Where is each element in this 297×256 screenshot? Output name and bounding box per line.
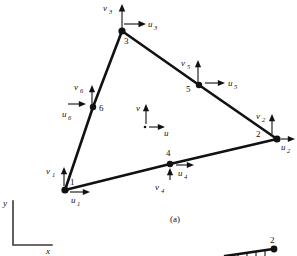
node-2-id-label: 2 xyxy=(256,129,261,139)
node-5-v-arrow-head xyxy=(195,60,201,67)
node-1-id-label: 1 xyxy=(70,177,75,187)
node-2-u-label: u xyxy=(281,142,286,152)
global-axes: y x xyxy=(2,198,52,256)
node-3-u-arrow-head xyxy=(139,21,147,28)
node-1-u-arrow-head xyxy=(83,189,90,195)
node-2-v-arrow-head xyxy=(269,114,275,121)
partial-figure-b-node-dot xyxy=(271,246,278,253)
node-2-v-sublabel: 2 xyxy=(262,116,266,123)
node-5-id-label: 5 xyxy=(186,84,191,94)
partial-figure-b-edge xyxy=(225,249,273,256)
node-4-v-sublabel: 4 xyxy=(161,187,165,194)
node-2-u-sublabel: 2 xyxy=(287,147,291,154)
partial-figure-b-node-label: 2 xyxy=(270,235,275,245)
node-4-id-label: 4 xyxy=(166,148,171,158)
node-6-dofs: v 6 u 6 6 xyxy=(62,82,104,121)
node-1-u-label: u xyxy=(71,195,76,205)
node-5-u-sublabel: 5 xyxy=(234,83,238,90)
global-y-axis-label: y xyxy=(2,198,7,208)
node-6-u-sublabel: 6 xyxy=(68,114,72,121)
node-3-u-sublabel: 3 xyxy=(153,24,158,31)
element-diagram-svg: v 3 u 3 3 v 5 u 5 5 v 2 u 2 xyxy=(0,0,297,256)
node-dot-1 xyxy=(61,186,68,193)
node-3-id-label: 3 xyxy=(124,36,129,46)
node-5-v-label: v xyxy=(181,58,185,68)
node-dot-5 xyxy=(196,82,202,88)
node-1-v-label: v xyxy=(46,166,50,176)
node-1-u-sublabel: 1 xyxy=(77,200,80,207)
global-axes-corner xyxy=(13,201,52,245)
local-u-axis-label: u xyxy=(164,128,169,138)
figure-container: v 3 u 3 3 v 5 u 5 5 v 2 u 2 xyxy=(0,0,297,256)
node-4-v-arrow-head xyxy=(167,168,173,175)
node-3-v-sublabel: 3 xyxy=(108,8,113,15)
node-5-dofs: v 5 u 5 5 xyxy=(181,58,238,94)
node-5-v-sublabel: 5 xyxy=(187,63,191,70)
node-3-dofs: v 3 u 3 3 xyxy=(103,3,158,46)
node-dot-2 xyxy=(273,135,280,142)
node-4-v-label: v xyxy=(155,182,159,192)
local-v-axis-head xyxy=(143,104,149,111)
node-3-u-label: u xyxy=(148,19,153,29)
node-1-v-sublabel: 1 xyxy=(52,171,55,178)
node-6-id-label: 6 xyxy=(99,103,104,113)
node-2-v-label: v xyxy=(256,111,260,121)
caption-a-label: (a) xyxy=(170,214,180,224)
local-axes: v u xyxy=(136,103,169,138)
node-dot-6 xyxy=(90,104,96,110)
node-3-v-label: v xyxy=(103,3,107,13)
node-6-v-sublabel: 6 xyxy=(80,87,84,94)
node-4-dofs: v 4 u 4 4 xyxy=(155,148,194,194)
node-4-u-sublabel: 4 xyxy=(184,173,188,180)
local-v-axis-label: v xyxy=(136,103,140,113)
node-2-u-arrow-head xyxy=(288,136,295,142)
node-4-u-label: u xyxy=(178,168,183,178)
edge-1-6-3 xyxy=(65,31,122,190)
node-dot-4 xyxy=(167,161,173,167)
node-6-u-arrow-head xyxy=(79,101,86,107)
node-dots xyxy=(61,27,280,193)
node-4-u-arrow-head xyxy=(187,162,194,168)
local-axes-origin-dot xyxy=(144,126,147,129)
node-6-v-label: v xyxy=(74,82,78,92)
node-5-u-label: u xyxy=(228,78,233,88)
node-1-v-arrow-head xyxy=(61,167,67,174)
global-x-axis-label: x xyxy=(45,246,50,256)
node-5-u-arrow-head xyxy=(218,80,225,86)
node-3-v-arrow-head xyxy=(119,4,126,12)
node-2-dofs: v 2 u 2 2 xyxy=(256,111,295,154)
node-6-v-arrow-head xyxy=(89,85,95,92)
node-6-u-label: u xyxy=(62,109,67,119)
partial-figure-b: 2 xyxy=(225,235,277,256)
